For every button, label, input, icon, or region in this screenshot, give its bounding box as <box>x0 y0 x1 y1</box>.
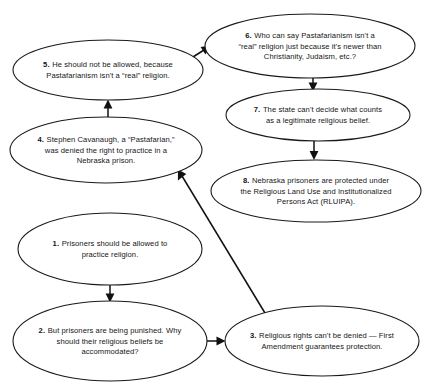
argument-node-5-line-1: 5.He should not be allowed, because <box>43 60 173 69</box>
argument-node-7-text-2: as a legitimate religious belief. <box>266 116 370 125</box>
argument-node-7-number: 7. <box>254 105 261 114</box>
edge-7-to-8 <box>310 141 319 160</box>
edge-4-to-5-arrowhead <box>104 100 113 109</box>
edge-4-to-5 <box>104 100 113 118</box>
argument-node-8-text-1: Nebraska prisoners are protected under <box>252 176 390 185</box>
argument-node-7-line-1: 7.The state can't decide what counts <box>254 105 383 114</box>
argument-node-3-line-1: 3.Religious rights can't be denied — Fir… <box>250 331 395 340</box>
argument-node-4-text-1: Stephen Cavanaugh, a “Pastafarian,” <box>47 135 175 144</box>
argument-node-2[interactable]: 2.But prisoners are being punished. Why … <box>13 301 207 381</box>
argument-map-canvas: 6.Who can say Pastafarianism isn't a “re… <box>0 0 428 388</box>
edge-2-to-3-arrowhead <box>217 337 226 346</box>
argument-node-8-number: 8. <box>243 176 250 185</box>
argument-map-diagram: 6.Who can say Pastafarianism isn't a “re… <box>0 0 428 388</box>
argument-node-1-number: 1. <box>53 239 60 248</box>
argument-node-4[interactable]: 4.Stephen Cavanaugh, a “Pastafarian,” wa… <box>10 117 202 183</box>
argument-node-4-number: 4. <box>37 135 44 144</box>
edge-1-to-2 <box>106 285 115 303</box>
argument-node-2-line-1: 2.But prisoners are being punished. Why <box>39 326 182 335</box>
edge-2-to-3 <box>207 337 226 346</box>
argument-node-4-text-3: Nebraska prison. <box>77 156 136 165</box>
argument-node-3-text-2: Amendment guarantees protection. <box>261 342 382 351</box>
argument-node-5-number: 5. <box>43 60 50 69</box>
argument-node-8-text-3: Persons Act (RLUIPA). <box>277 197 355 206</box>
argument-node-3-text-1: Religious rights can't be denied — First <box>259 331 395 340</box>
argument-node-8[interactable]: 8.Nebraska prisoners are protected under… <box>211 160 421 222</box>
argument-node-2-text-2: should their religious beliefs be <box>57 337 164 346</box>
argument-node-6-text-3: Christianity, Judaism, etc.? <box>264 52 356 61</box>
argument-node-7[interactable]: 7.The state can't decide what counts as … <box>226 89 410 141</box>
edge-7-to-8-arrowhead <box>310 151 319 160</box>
argument-node-6-line-1: 6.Who can say Pastafarianism isn't a <box>245 31 375 40</box>
argument-node-4-text-2: was denied the right to practice in a <box>44 146 168 155</box>
argument-node-5[interactable]: 5.He should not be allowed, because Past… <box>13 40 203 100</box>
argument-node-1-text-1: Prisoners should be allowed to <box>62 239 168 248</box>
argument-node-6-number: 6. <box>245 31 252 40</box>
argument-node-1-line-1: 1.Prisoners should be allowed to <box>53 239 168 248</box>
argument-node-7-text-1: The state can't decide what counts <box>263 105 382 114</box>
argument-node-2-text-1: But prisoners are being punished. Why <box>48 326 182 335</box>
argument-node-3[interactable]: 3.Religious rights can't be denied — Fir… <box>225 306 419 376</box>
argument-node-2-number: 2. <box>39 326 46 335</box>
argument-node-5-text-1: He should not be allowed, because <box>52 60 173 69</box>
argument-node-4-line-1: 4.Stephen Cavanaugh, a “Pastafarian,” <box>37 135 175 144</box>
argument-node-5-text-2: Pastafarianism isn't a “real” religion. <box>46 71 169 80</box>
argument-node-6[interactable]: 6.Who can say Pastafarianism isn't a “re… <box>205 14 415 78</box>
argument-node-1-text-2: practice religion. <box>82 250 139 259</box>
argument-node-6-text-2: “real” religion just because it's newer … <box>238 42 381 51</box>
argument-node-6-text-1: Who can say Pastafarianism isn't a <box>254 31 375 40</box>
argument-node-1[interactable]: 1.Prisoners should be allowed to practic… <box>18 213 202 285</box>
argument-node-8-line-1: 8.Nebraska prisoners are protected under <box>243 176 390 185</box>
argument-node-8-text-2: the Religious Land Use and Institutional… <box>240 187 391 196</box>
argument-node-2-text-3: accommodated? <box>81 347 138 356</box>
argument-node-3-number: 3. <box>250 331 257 340</box>
